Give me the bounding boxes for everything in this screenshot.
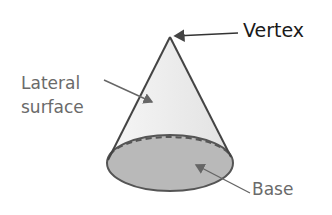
vertex-label: Vertex	[243, 21, 304, 40]
lateral-surface-label: Lateral surface	[21, 71, 84, 119]
base-label: Base	[252, 181, 293, 198]
vertex-arrow	[175, 33, 238, 36]
cone-diagram: Vertex Lateral surface Base	[0, 0, 332, 215]
base-ellipse	[107, 135, 233, 191]
